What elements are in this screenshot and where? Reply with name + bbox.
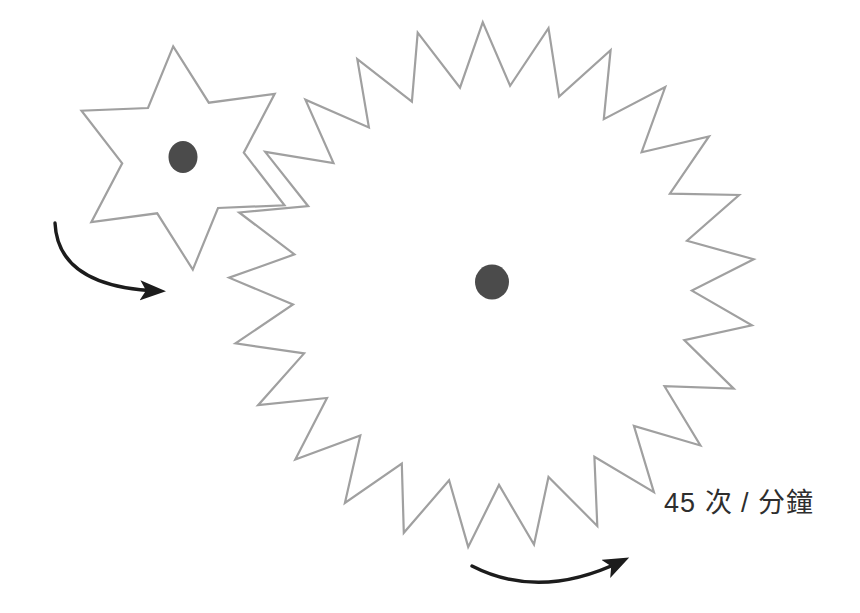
- large-gear: [229, 22, 754, 547]
- small-gear-rotation-arrow-icon: [55, 223, 158, 291]
- gear-diagram: 45 次 / 分鐘: [0, 0, 860, 613]
- small-gear-hub: [169, 141, 198, 173]
- large-gear-rotation-arrow-icon: [472, 561, 622, 582]
- large-gear-hub: [475, 265, 509, 300]
- gear-diagram-svg: 45 次 / 分鐘: [0, 0, 860, 613]
- large-gear-speed-label: 45 次 / 分鐘: [664, 488, 814, 518]
- small-gear: [82, 46, 285, 269]
